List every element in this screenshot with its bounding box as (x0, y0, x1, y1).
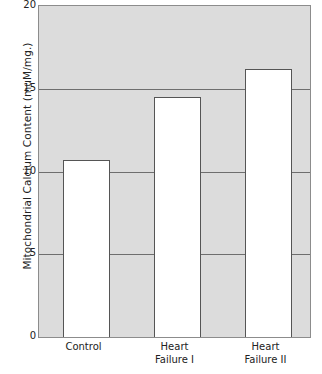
x-tick-line: Heart (220, 341, 311, 354)
bar-heart-failure-i[interactable] (154, 97, 201, 337)
y-tick-10: 10 (6, 166, 36, 176)
x-tick-line: Control (38, 341, 129, 354)
x-tick-heart-failure-i: HeartFailure I (129, 341, 220, 366)
bar-control[interactable] (63, 160, 110, 337)
x-tick-heart-failure-ii: HeartFailure II (220, 341, 311, 366)
y-tick-20: 20 (6, 0, 36, 10)
bar-chart-figure: Mitochondrial Calcium Content (muM/mg.) … (0, 0, 322, 374)
y-tick-5: 5 (6, 248, 36, 258)
y-tick-15: 15 (6, 83, 36, 93)
plot-area (38, 5, 311, 338)
bar-heart-failure-ii[interactable] (245, 69, 292, 337)
x-tick-line: Failure II (220, 354, 311, 367)
x-tick-line: Failure I (129, 354, 220, 367)
x-tick-line: Heart (129, 341, 220, 354)
x-axis-tick-labels: ControlHeartFailure IHeartFailure II (38, 341, 311, 374)
y-axis-tick-labels: 05101520 (0, 0, 36, 374)
y-tick-0: 0 (6, 331, 36, 341)
x-tick-control: Control (38, 341, 129, 354)
